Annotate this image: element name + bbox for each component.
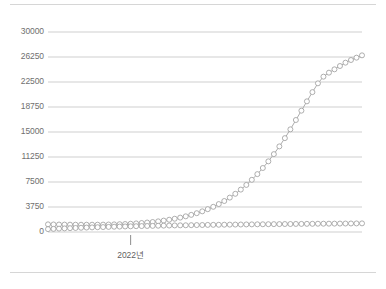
data-point-marker (167, 217, 172, 222)
data-point-marker (332, 67, 337, 72)
data-point-marker (282, 136, 287, 141)
data-point-marker (310, 90, 315, 95)
data-point-marker (194, 211, 199, 216)
data-point-marker (178, 223, 183, 228)
data-point-marker (189, 212, 194, 217)
data-point-marker (90, 225, 95, 230)
data-point-marker (277, 222, 282, 227)
data-point-marker (326, 221, 331, 226)
data-point-marker (68, 226, 73, 231)
data-point-marker (332, 221, 337, 226)
data-point-marker (360, 221, 365, 226)
data-point-marker (244, 182, 249, 187)
x-tick-label: 2022년 (101, 250, 161, 260)
data-point-marker (249, 177, 254, 182)
chart-screenshot: 037507500112501500018750225002625030000 … (0, 0, 386, 289)
data-point-marker (299, 108, 304, 113)
data-point-marker (172, 216, 177, 221)
data-point-marker (211, 222, 216, 227)
data-point-marker (255, 172, 260, 177)
line-chart: 037507500112501500018750225002625030000 … (0, 0, 386, 289)
data-point-marker (354, 221, 359, 226)
data-point-marker (139, 224, 144, 229)
data-point-marker (233, 191, 238, 196)
data-point-marker (249, 222, 254, 227)
data-point-marker (238, 222, 243, 227)
data-point-marker (62, 226, 67, 231)
data-point-marker (205, 222, 210, 227)
data-point-marker (354, 55, 359, 60)
series-line (48, 55, 362, 224)
data-point-marker (112, 224, 117, 229)
data-point-marker (167, 223, 172, 228)
series-rising (46, 53, 365, 227)
data-point-marker (326, 70, 331, 75)
data-point-marker (233, 222, 238, 227)
data-point-marker (277, 144, 282, 149)
data-point-marker (161, 223, 166, 228)
data-point-marker (73, 225, 78, 230)
data-point-marker (95, 225, 100, 230)
data-point-marker (227, 195, 232, 200)
data-point-marker (216, 202, 221, 207)
data-point-marker (150, 223, 155, 228)
data-point-marker (337, 221, 342, 226)
data-point-marker (216, 222, 221, 227)
data-point-marker (360, 53, 365, 58)
data-point-marker (271, 222, 276, 227)
data-point-marker (156, 223, 161, 228)
data-point-marker (51, 226, 56, 231)
data-point-marker (348, 221, 353, 226)
data-point-marker (46, 222, 51, 227)
data-point-marker (315, 221, 320, 226)
data-point-marker (200, 223, 205, 228)
data-point-marker (200, 209, 205, 214)
series-layer (46, 53, 365, 232)
data-point-marker (343, 221, 348, 226)
data-point-marker (128, 224, 133, 229)
data-point-marker (46, 227, 51, 232)
data-point-marker (293, 221, 298, 226)
data-point-marker (57, 226, 62, 231)
data-point-marker (106, 224, 111, 229)
data-point-marker (315, 81, 320, 86)
data-point-marker (161, 218, 166, 223)
data-point-marker (271, 152, 276, 157)
data-point-marker (183, 214, 188, 219)
data-point-marker (288, 222, 293, 227)
data-point-marker (337, 64, 342, 69)
data-point-marker (244, 222, 249, 227)
data-point-marker (205, 207, 210, 212)
data-point-marker (266, 159, 271, 164)
data-point-marker (260, 166, 265, 171)
data-point-marker (321, 221, 326, 226)
data-point-marker (343, 60, 348, 65)
data-point-marker (134, 224, 139, 229)
data-point-marker (304, 221, 309, 226)
data-point-marker (84, 225, 89, 230)
data-point-marker (101, 225, 106, 230)
data-point-marker (211, 204, 216, 209)
data-point-marker (266, 222, 271, 227)
data-point-marker (172, 223, 177, 228)
data-point-marker (310, 221, 315, 226)
chart-plot-svg (0, 0, 386, 289)
data-point-marker (348, 58, 353, 63)
data-point-marker (227, 222, 232, 227)
data-point-marker (222, 199, 227, 204)
data-point-marker (293, 118, 298, 123)
data-point-marker (304, 99, 309, 104)
data-point-marker (222, 222, 227, 227)
data-point-marker (255, 222, 260, 227)
data-point-marker (123, 224, 128, 229)
data-point-marker (299, 221, 304, 226)
data-point-marker (79, 225, 84, 230)
data-point-marker (194, 223, 199, 228)
data-point-marker (145, 223, 150, 228)
data-point-marker (260, 222, 265, 227)
data-point-marker (178, 215, 183, 220)
data-point-marker (321, 74, 326, 79)
data-point-marker (238, 187, 243, 192)
data-point-marker (117, 224, 122, 229)
data-point-marker (288, 127, 293, 132)
